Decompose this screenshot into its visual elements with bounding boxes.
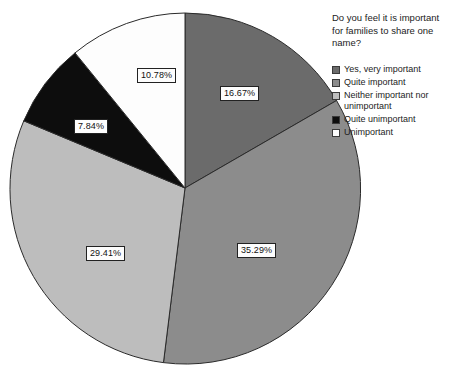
legend-item-label: Quite important [344,77,444,89]
legend-swatch-icon [332,79,340,87]
legend-item-label: Unimportant [344,127,444,139]
slice-label-quite-unimportant: 7.84% [74,119,108,134]
slice-label-unimportant: 10.78% [137,68,176,83]
legend-item-quite-important[interactable]: Quite important [332,77,450,89]
slice-label-yes-very-important: 16.67% [220,86,259,101]
legend-swatch-icon [332,116,340,124]
legend-swatch-icon [332,92,340,100]
pie-chart-area: 16.67% 35.29% 29.41% 7.84% 10.78% [0,0,375,379]
legend-item-neither-important-nor-unimportant[interactable]: Neither important nor unimportant [332,90,450,113]
chart-title: Do you feel it is important for families… [332,12,444,50]
legend-item-label: Yes, very important [344,64,444,76]
slice-label-neither-important-nor-unimportant: 29.41% [86,246,125,261]
legend-item-label: Quite unimportant [344,114,444,126]
legend-swatch-icon [332,129,340,137]
pie-chart-svg [0,0,375,379]
pie-slices [10,13,361,364]
slice-label-quite-important: 35.29% [237,243,276,258]
legend-panel: Do you feel it is important for families… [332,12,450,140]
legend-item-yes-very-important[interactable]: Yes, very important [332,64,450,76]
legend-item-quite-unimportant[interactable]: Quite unimportant [332,114,450,126]
legend-list: Yes, very important Quite important Neit… [332,64,450,139]
legend-item-unimportant[interactable]: Unimportant [332,127,450,139]
legend-swatch-icon [332,66,340,74]
legend-item-label: Neither important nor unimportant [344,90,444,113]
